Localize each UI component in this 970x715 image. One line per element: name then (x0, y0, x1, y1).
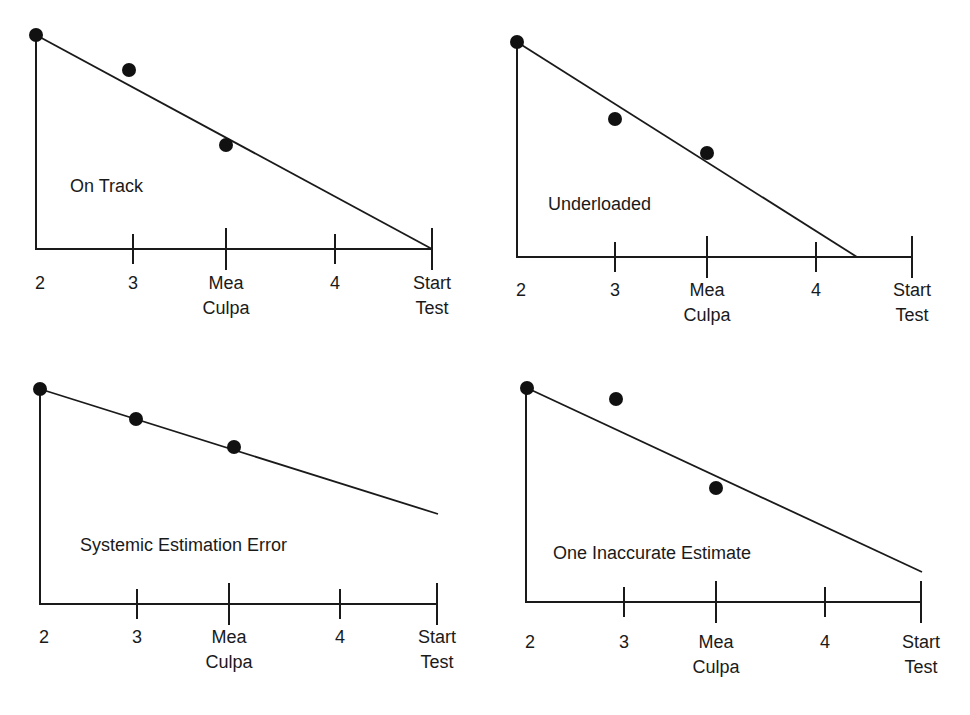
x-tick-label: MeaCulpa (692, 632, 740, 677)
data-point (709, 481, 723, 495)
trend-line (36, 35, 432, 249)
data-point (219, 138, 233, 152)
x-tick-label: 4 (330, 273, 340, 293)
data-point (700, 146, 714, 160)
x-tick-label: MeaCulpa (205, 627, 253, 672)
panel-one-inaccurate-estimate: One Inaccurate Estimate23MeaCulpa4StartT… (520, 381, 940, 677)
panel-underloaded: Underloaded23MeaCulpa4StartTest (510, 35, 931, 325)
burndown-figure: On Track23MeaCulpa4StartTestUnderloaded2… (0, 0, 970, 715)
data-point (33, 382, 47, 396)
axes (526, 388, 921, 602)
data-point (29, 28, 43, 42)
panel-on-track: On Track23MeaCulpa4StartTest (29, 28, 451, 318)
x-tick-label: 3 (132, 627, 142, 647)
x-tick-label: StartTest (418, 627, 456, 672)
x-tick-label: StartTest (902, 632, 940, 677)
axes (517, 42, 912, 257)
x-tick-label: 2 (516, 280, 526, 300)
x-tick-label: 4 (335, 627, 345, 647)
x-tick-label: 3 (610, 280, 620, 300)
x-tick-label: 3 (619, 632, 629, 652)
trend-line (517, 42, 857, 257)
x-tick-label: 4 (811, 280, 821, 300)
x-tick-label: MeaCulpa (202, 273, 250, 318)
panel-title: Systemic Estimation Error (80, 535, 287, 555)
panel-title: One Inaccurate Estimate (553, 543, 751, 563)
data-point (227, 440, 241, 454)
data-point (129, 412, 143, 426)
data-point (520, 381, 534, 395)
axes (40, 389, 437, 604)
x-tick-label: StartTest (413, 273, 451, 318)
data-point (609, 392, 623, 406)
data-point (122, 63, 136, 77)
x-tick-label: 3 (128, 273, 138, 293)
x-tick-label: 2 (35, 273, 45, 293)
x-tick-label: MeaCulpa (683, 280, 731, 325)
x-tick-label: StartTest (893, 280, 931, 325)
x-tick-label: 2 (525, 632, 535, 652)
panel-title: On Track (70, 176, 144, 196)
x-tick-label: 2 (39, 627, 49, 647)
x-tick-label: 4 (820, 632, 830, 652)
panel-title: Underloaded (548, 194, 651, 214)
data-point (608, 112, 622, 126)
panel-systemic-estimation-error: Systemic Estimation Error23MeaCulpa4Star… (33, 382, 456, 672)
data-point (510, 35, 524, 49)
